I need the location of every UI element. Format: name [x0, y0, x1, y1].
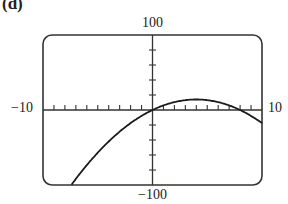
- y-max-label: 100: [142, 16, 163, 30]
- function-curve: [72, 100, 263, 185]
- x-max-label: 10: [268, 101, 282, 115]
- y-min-label: −100: [138, 188, 167, 202]
- x-min-label: −10: [11, 101, 33, 115]
- plot-area: [0, 0, 288, 204]
